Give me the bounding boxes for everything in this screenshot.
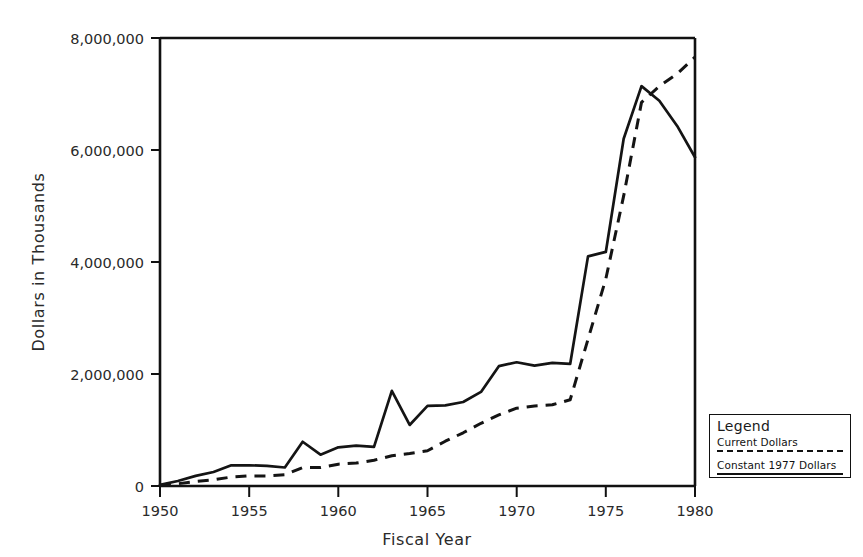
- y-tick-marks: [151, 38, 160, 486]
- legend-swatch-solid: [717, 473, 843, 475]
- legend-box: Legend Current Dollars Constant 1977 Dol…: [709, 414, 851, 478]
- legend-swatch-dashed: [717, 450, 843, 452]
- x-axis-title: Fiscal Year: [382, 530, 471, 549]
- chart-figure: 8,000,000 6,000,000 4,000,000 2,000,000 …: [0, 0, 863, 557]
- legend-entry-label: Current Dollars: [717, 436, 850, 448]
- x-tick-label: 1975: [587, 503, 624, 519]
- y-tick-label: 8,000,000: [70, 31, 144, 47]
- y-tick-label: 6,000,000: [70, 143, 144, 159]
- x-tick-label: 1960: [320, 503, 357, 519]
- series-line-current-dollars: [160, 57, 695, 485]
- y-axis-title: Dollars in Thousands: [29, 172, 48, 351]
- y-tick-label: 2,000,000: [70, 367, 144, 383]
- x-tick-marks: [160, 486, 695, 497]
- y-tick-label: 0: [135, 479, 144, 495]
- x-tick-label: 1950: [142, 503, 179, 519]
- x-tick-labels: 1950 1955 1960 1965 1970 1975 1980: [142, 503, 714, 519]
- legend-entry-constant-1977-dollars: Constant 1977 Dollars: [717, 459, 850, 476]
- x-tick-label: 1970: [498, 503, 535, 519]
- legend-entry-label: Constant 1977 Dollars: [717, 459, 850, 471]
- data-series-group: [160, 57, 695, 485]
- x-tick-label: 1955: [231, 503, 268, 519]
- y-tick-label: 4,000,000: [70, 255, 144, 271]
- series-line-constant-1977-dollars: [160, 86, 695, 485]
- legend-entry-current-dollars: Current Dollars: [717, 436, 850, 453]
- x-tick-label: 1965: [409, 503, 446, 519]
- plot-axes: [160, 38, 695, 486]
- y-tick-labels: 8,000,000 6,000,000 4,000,000 2,000,000 …: [70, 31, 144, 495]
- legend-title: Legend: [717, 418, 850, 434]
- x-tick-label: 1980: [677, 503, 714, 519]
